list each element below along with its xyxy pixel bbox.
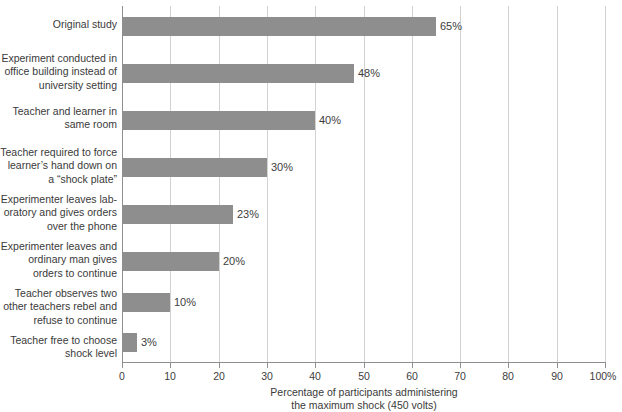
bar [122,252,219,271]
x-tick-label-20: 20 [213,370,225,382]
gridline-70 [460,6,461,362]
bar-value-label: 3% [141,333,157,352]
x-tick-label-10: 10 [164,370,176,382]
gridline-40 [315,6,316,362]
category-label: Teacher and learner in same room [0,105,117,132]
category-label: Experiment conducted in office building … [0,52,117,92]
x-tick-label-50: 50 [358,370,370,382]
x-tick-label-60: 60 [406,370,418,382]
x-tick-60 [412,362,413,368]
bar-value-label: 10% [174,293,196,312]
x-tick-70 [460,362,461,368]
bar [122,333,137,352]
category-label: Teacher required to force learner’s hand… [0,146,117,186]
bar-value-label: 65% [440,17,462,36]
x-tick-label-40: 40 [309,370,321,382]
bar-value-label: 40% [319,111,341,130]
x-tick-10 [170,362,171,368]
x-tick-label-0: 0 [119,370,125,382]
category-label: Original study [0,18,117,31]
gridline-100 [605,6,606,362]
bar-value-label: 30% [271,158,293,177]
bar [122,158,267,177]
category-label: Teacher free to choose shock level [0,334,117,361]
x-tick-label-80: 80 [502,370,514,382]
x-tick-label-90: 90 [551,370,563,382]
gridline-20 [219,6,220,362]
x-tick-label-70: 70 [454,370,466,382]
x-tick-80 [508,362,509,368]
category-label: Teacher observes two other teachers rebe… [0,287,117,327]
bar-value-label: 23% [237,205,259,224]
bar [122,205,233,224]
gridline-90 [557,6,558,362]
bar [122,111,315,130]
bar-value-label: 20% [223,252,245,271]
x-tick-20 [219,362,220,368]
category-label: Experimenter leaves and ordinary man giv… [0,240,117,280]
x-tick-100 [605,362,606,368]
x-tick-50 [364,362,365,368]
x-tick-40 [315,362,316,368]
bar-chart: 0 10 20 30 40 50 60 70 80 90 100% Origin… [0,0,622,412]
category-label: Experimenter leaves lab- oratory and giv… [0,193,117,233]
gridline-30 [267,6,268,362]
gridline-10 [170,6,171,362]
x-tick-90 [557,362,558,368]
x-axis-caption: Percentage of participants administering… [122,386,606,411]
bar [122,17,436,36]
gridline-60 [412,6,413,362]
bar [122,293,170,312]
gridline-50 [364,6,365,362]
x-tick-30 [267,362,268,368]
gridline-80 [508,6,509,362]
x-tick-label-30: 30 [261,370,273,382]
bar [122,64,354,83]
bar-value-label: 48% [358,64,380,83]
x-tick-0 [122,362,123,368]
x-tick-label-100: 100% [590,370,617,382]
